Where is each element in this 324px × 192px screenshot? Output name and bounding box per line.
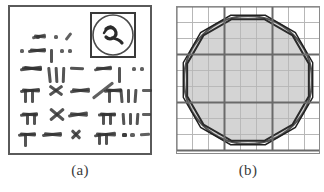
handwritten-stroke xyxy=(122,133,127,137)
handwritten-stroke xyxy=(129,113,132,125)
handwritten-stroke xyxy=(102,113,105,125)
handwritten-stroke xyxy=(47,67,52,83)
handwritten-stroke xyxy=(140,67,144,71)
handwritten-stroke xyxy=(20,49,24,53)
handwritten-stroke xyxy=(130,133,135,137)
handwritten-stroke xyxy=(118,67,121,83)
handwritten-stroke xyxy=(50,49,53,63)
handwritten-stroke xyxy=(31,89,34,103)
handwritten-stroke xyxy=(119,89,123,103)
handwritten-stroke xyxy=(98,133,101,145)
handwritten-stroke xyxy=(24,133,27,147)
handwritten-stroke xyxy=(140,133,150,137)
figure-root: (a) (b) xyxy=(0,0,324,192)
handwritten-stroke xyxy=(142,113,151,116)
panel-b xyxy=(176,6,320,154)
handwritten-stroke xyxy=(122,113,126,125)
handwritten-stroke xyxy=(54,35,58,39)
handwritten-stroke xyxy=(134,89,138,103)
handwritten-stroke xyxy=(132,67,136,71)
handwritten-stroke xyxy=(60,49,64,53)
handwritten-stroke xyxy=(68,49,72,53)
handwritten-stroke xyxy=(70,67,84,70)
handwritten-stroke xyxy=(55,67,59,83)
handwritten-stroke xyxy=(109,113,112,125)
boxed-circle-scribble-icon xyxy=(91,13,135,57)
handwritten-stroke xyxy=(108,89,111,103)
handwritten-stroke xyxy=(26,113,29,125)
panel-a-artwork xyxy=(8,5,152,155)
handwritten-stroke xyxy=(65,32,73,41)
handwritten-stroke xyxy=(142,89,152,92)
handwritten-stroke xyxy=(96,67,112,71)
handwritten-stroke xyxy=(136,113,140,125)
caption-panel-a: (a) xyxy=(8,162,152,179)
caption-panel-b: (b) xyxy=(176,162,320,179)
handwritten-stroke xyxy=(33,113,36,125)
panel-a xyxy=(8,5,152,155)
handwritten-stroke xyxy=(105,133,108,145)
panel-b-artwork xyxy=(176,6,320,154)
handwritten-stroke xyxy=(127,89,130,103)
handwritten-stroke xyxy=(62,67,66,83)
handwritten-stroke xyxy=(24,89,27,103)
